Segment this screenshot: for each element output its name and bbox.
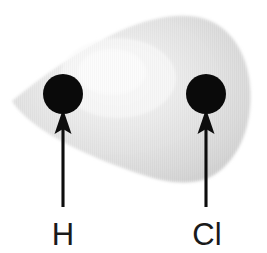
atom-dot-hydrogen [43,74,83,114]
atom-label-hydrogen: H [52,217,74,252]
diagram-canvas: H Cl [0,0,267,253]
molecular-diagram-figure: H Cl [0,0,267,253]
atom-dot-chlorine [186,74,226,114]
atom-label-chlorine: Cl [192,217,221,252]
